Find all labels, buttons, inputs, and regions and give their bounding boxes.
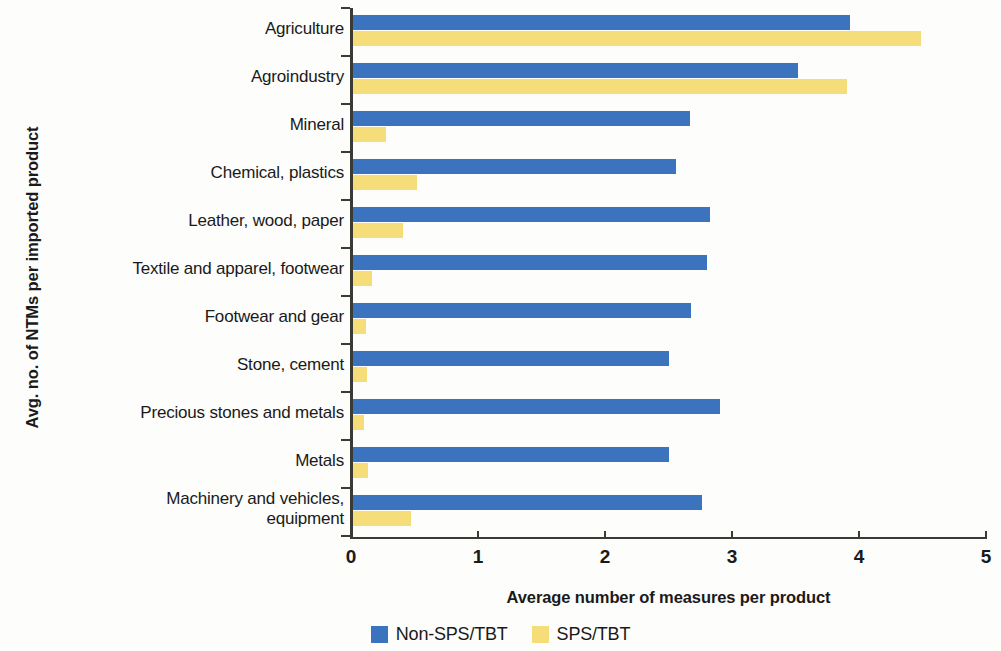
x-axis-tick — [604, 531, 606, 539]
y-axis-category-label: Chemical, plastics — [34, 163, 344, 183]
plot-area — [350, 8, 985, 537]
bar-sps-tbt — [353, 415, 364, 430]
y-axis-category-label: Metals — [34, 451, 344, 471]
bar-non-sps-tbt — [353, 15, 850, 30]
y-axis-category-label: Agroindustry — [34, 67, 344, 87]
y-axis-category-label: Textile and apparel, footwear — [34, 259, 344, 279]
legend-item: SPS/TBT — [532, 624, 631, 645]
bar-sps-tbt — [353, 511, 411, 526]
bar-sps-tbt — [353, 175, 417, 190]
y-axis-tick — [341, 487, 350, 489]
bar-non-sps-tbt — [353, 399, 720, 414]
bar-non-sps-tbt — [353, 159, 676, 174]
y-axis-category-label: Leather, wood, paper — [34, 211, 344, 231]
bar-sps-tbt — [353, 127, 386, 142]
y-axis-tick — [341, 103, 350, 105]
legend-swatch-icon — [532, 626, 549, 643]
bar-non-sps-tbt — [353, 207, 710, 222]
y-axis-tick — [341, 151, 350, 153]
y-axis-category-label: Footwear and gear — [34, 307, 344, 327]
y-axis-tick — [341, 295, 350, 297]
y-axis-tick — [341, 199, 350, 201]
bar-sps-tbt — [353, 223, 403, 238]
legend-swatch-icon — [371, 626, 388, 643]
legend-label: Non-SPS/TBT — [396, 624, 508, 645]
bar-non-sps-tbt — [353, 63, 798, 78]
bar-chart: Avg. no. of NTMs per imported product Ag… — [0, 0, 1001, 651]
y-axis-category-label: Stone, cement — [34, 355, 344, 375]
x-axis-tick-label: 0 — [331, 546, 371, 568]
x-axis-title: Average number of measures per product — [350, 588, 987, 607]
x-axis-tick — [985, 531, 987, 539]
y-axis-tick — [341, 535, 350, 537]
y-axis-tick — [341, 7, 350, 9]
bar-non-sps-tbt — [353, 447, 669, 462]
bar-sps-tbt — [353, 367, 367, 382]
y-axis-tick — [341, 247, 350, 249]
x-axis-line — [350, 537, 987, 539]
chart-legend: Non-SPS/TBTSPS/TBT — [0, 624, 1001, 645]
bar-non-sps-tbt — [353, 255, 707, 270]
bar-non-sps-tbt — [353, 303, 691, 318]
y-axis-tick — [341, 439, 350, 441]
x-axis-tick-label: 2 — [585, 546, 625, 568]
y-axis-category-label: Precious stones and metals — [34, 403, 344, 423]
x-axis-tick — [350, 531, 352, 539]
bar-sps-tbt — [353, 319, 366, 334]
x-axis-tick-label: 4 — [839, 546, 879, 568]
bar-non-sps-tbt — [353, 111, 690, 126]
x-axis-tick — [477, 531, 479, 539]
bar-sps-tbt — [353, 31, 921, 46]
y-axis-tick — [341, 55, 350, 57]
y-axis-tick — [341, 391, 350, 393]
legend-item: Non-SPS/TBT — [371, 624, 508, 645]
y-axis-category-label: Agriculture — [34, 19, 344, 39]
bar-sps-tbt — [353, 79, 847, 94]
bar-non-sps-tbt — [353, 495, 702, 510]
bar-non-sps-tbt — [353, 351, 669, 366]
y-axis-category-labels: AgricultureAgroindustryMineralChemical, … — [34, 0, 344, 537]
bar-sps-tbt — [353, 463, 368, 478]
x-axis-tick-label: 3 — [712, 546, 752, 568]
x-axis-tick — [731, 531, 733, 539]
bar-sps-tbt — [353, 271, 372, 286]
x-axis-tick-label: 1 — [458, 546, 498, 568]
y-axis-tick — [341, 343, 350, 345]
x-axis-tick — [858, 531, 860, 539]
x-axis-tick-label: 5 — [966, 546, 1001, 568]
y-axis-category-label: Mineral — [34, 115, 344, 135]
y-axis-category-label: Machinery and vehicles, equipment — [34, 489, 344, 529]
legend-label: SPS/TBT — [557, 624, 631, 645]
